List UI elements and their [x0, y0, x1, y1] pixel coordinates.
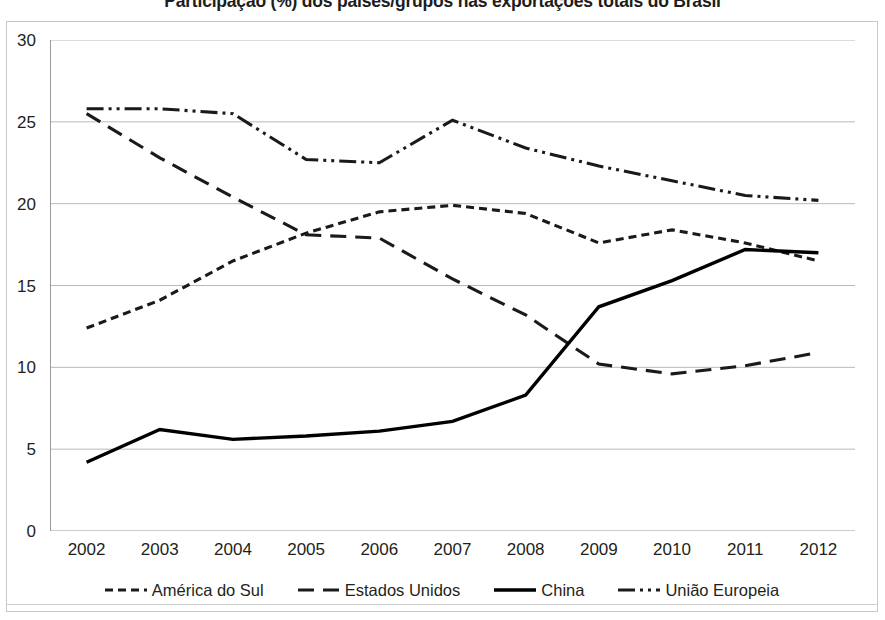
x-axis-tick-label: 2008	[507, 541, 545, 558]
legend-label: China	[541, 582, 584, 599]
solid-line-swatch	[494, 584, 536, 596]
series-line-1	[87, 114, 819, 374]
y-axis-tick-label: 15	[17, 277, 36, 294]
legend-item[interactable]: China	[494, 582, 584, 599]
x-axis-tick-labels: 2002200320042005200620072008200920102011…	[0, 541, 885, 571]
chart-legend: América do SulEstados UnidosChinaUnião E…	[6, 572, 878, 608]
x-axis-tick-label: 2007	[434, 541, 472, 558]
x-axis-tick-label: 2005	[287, 541, 325, 558]
x-axis-tick-label: 2002	[68, 541, 106, 558]
y-axis-tick-label: 0	[27, 523, 36, 540]
dotted-line-swatch	[105, 584, 147, 596]
y-axis-tick-label: 30	[17, 32, 36, 49]
legend-item[interactable]: União Europeia	[618, 582, 779, 599]
x-axis-tick-label: 2011	[727, 541, 764, 558]
series-line-3	[87, 109, 819, 201]
x-axis-tick-label: 2003	[141, 541, 179, 558]
legend-label: União Europeia	[665, 582, 779, 599]
x-axis-tick-label: 2004	[214, 541, 252, 558]
x-axis-tick-label: 2012	[799, 541, 837, 558]
x-axis-tick-label: 2009	[580, 541, 618, 558]
dash-dot-dot-line-swatch	[618, 584, 660, 596]
y-axis-tick-labels: 051015202530	[0, 0, 46, 620]
chart-root: Participação (%) dos países/grupos nas e…	[0, 0, 885, 620]
dashed-line-swatch	[298, 584, 340, 596]
plot-svg	[50, 40, 855, 531]
y-axis-tick-label: 20	[17, 195, 36, 212]
y-axis-tick-label: 25	[17, 113, 36, 130]
legend-item[interactable]: América do Sul	[105, 582, 264, 599]
x-axis-tick-label: 2006	[360, 541, 398, 558]
x-axis-tick-label: 2010	[653, 541, 691, 558]
y-axis-tick-label: 5	[27, 441, 36, 458]
legend-divider	[7, 604, 877, 605]
plot-area	[50, 40, 855, 531]
legend-item[interactable]: Estados Unidos	[298, 582, 461, 599]
chart-title: Participação (%) dos países/grupos nas e…	[0, 0, 885, 12]
legend-label: Estados Unidos	[345, 582, 461, 599]
y-axis-tick-label: 10	[17, 359, 36, 376]
legend-label: América do Sul	[152, 582, 264, 599]
